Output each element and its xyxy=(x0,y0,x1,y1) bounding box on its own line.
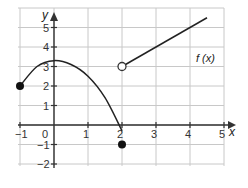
x-tick-label: −1 xyxy=(15,128,28,140)
y-tick-label: −2 xyxy=(37,158,50,170)
x-axis-label: x xyxy=(228,125,236,139)
y-tick-label: −1 xyxy=(37,139,50,151)
x-tick-label: 4 xyxy=(185,128,191,140)
y-tick-label: 4 xyxy=(43,41,49,53)
x-tick-label: 1 xyxy=(83,128,89,140)
y-axis-label: y xyxy=(41,8,49,22)
y-axis-arrow-icon xyxy=(50,12,58,21)
open-endpoint-icon xyxy=(118,63,126,71)
function-curve xyxy=(20,61,122,131)
filled-endpoint-icon xyxy=(16,82,24,90)
y-tick-label: 5 xyxy=(43,22,49,34)
function-label: f (x) xyxy=(196,52,215,64)
x-tick-label: 3 xyxy=(151,128,157,140)
y-tick-label: 1 xyxy=(43,100,49,112)
filled-point-icon xyxy=(118,141,126,149)
y-tick-label: 2 xyxy=(43,80,49,92)
function-line xyxy=(122,18,207,67)
x-tick-label: 5 xyxy=(219,128,225,140)
function-graph: −101234554321−1−2 x y f (x) xyxy=(0,0,248,188)
